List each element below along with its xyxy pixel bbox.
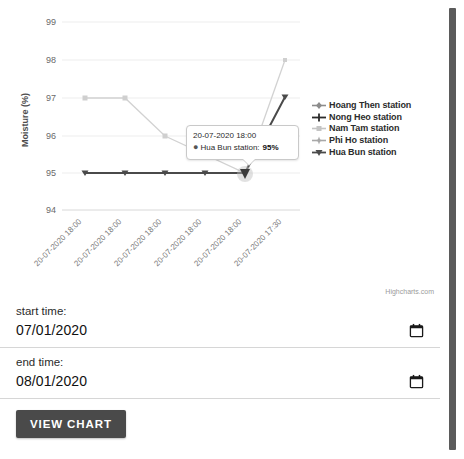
tooltip-date: 20-07-2020 18:00 xyxy=(193,130,292,141)
star-marker-icon xyxy=(312,135,326,146)
square-marker-icon xyxy=(312,123,326,134)
moisture-chart-panel: 99 98 97 96 95 94 Moisture (%) xyxy=(0,0,440,300)
legend-item-nam-tam-station[interactable]: Nam Tam station xyxy=(312,123,442,135)
legend-label-phi-ho-station: Phi Ho station xyxy=(329,135,388,146)
y-axis-ticks: 99 98 97 96 95 94 xyxy=(46,17,56,215)
start-time-label: start time: xyxy=(16,297,424,319)
legend-item-phi-ho-station[interactable]: Phi Ho station xyxy=(312,135,442,147)
legend-label-nong-heo-station: Nong Heo station xyxy=(329,112,402,123)
y-tick-98: 98 xyxy=(46,55,56,65)
diamond-marker-icon xyxy=(312,100,326,111)
tooltip-bullet-icon: ● xyxy=(193,141,198,153)
y-tick-97: 97 xyxy=(46,93,56,103)
y-tick-94: 94 xyxy=(46,205,56,215)
chart-legend: Hoang Then station Nong Heo station Nam … xyxy=(312,100,442,158)
y-tick-95: 95 xyxy=(46,168,56,178)
highcharts-credit[interactable]: Highcharts.com xyxy=(385,288,434,296)
x-axis-ticks: 20-07-2020 18:00 20-07-2020 18:00 20-07-… xyxy=(32,217,283,268)
legend-item-hua-bun-station[interactable]: Hua Bun station xyxy=(312,146,442,158)
y-axis-title: Moisture (%) xyxy=(20,93,30,147)
start-time-input[interactable]: 07/01/2020 xyxy=(16,322,87,338)
start-time-field-group: start time: 07/01/2020 xyxy=(0,297,440,348)
chart-tooltip: 20-07-2020 18:00 ● Hua Bun station: 95% xyxy=(186,125,299,160)
chart-gridlines xyxy=(62,22,300,210)
date-range-form: start time: 07/01/2020 end time: 08/01/2… xyxy=(0,297,440,438)
end-time-input-row[interactable]: 08/01/2020 xyxy=(16,370,424,398)
tooltip-pointer xyxy=(243,159,255,165)
legend-label-hua-bun-station: Hua Bun station xyxy=(329,147,397,158)
calendar-icon[interactable] xyxy=(409,323,424,338)
start-time-input-row[interactable]: 07/01/2020 xyxy=(16,319,424,347)
selected-data-point[interactable] xyxy=(237,166,253,182)
legend-label-nam-tam-station: Nam Tam station xyxy=(329,123,399,134)
triangle-down-marker-icon xyxy=(312,147,326,158)
view-chart-button[interactable]: VIEW CHART xyxy=(16,410,126,438)
tooltip-series-row: ● Hua Bun station: 95% xyxy=(193,141,292,154)
y-tick-96: 96 xyxy=(46,131,56,141)
tooltip-value: 95% xyxy=(263,142,279,154)
vertical-scrollbar-thumb[interactable] xyxy=(449,8,456,450)
y-tick-99: 99 xyxy=(46,17,56,27)
legend-item-hoang-then-station[interactable]: Hoang Then station xyxy=(312,100,442,112)
tooltip-series-label: Hua Bun station: xyxy=(200,142,259,154)
end-time-field-group: end time: 08/01/2020 xyxy=(0,348,440,399)
legend-label-hoang-then-station: Hoang Then station xyxy=(329,100,411,111)
end-time-label: end time: xyxy=(16,348,424,370)
calendar-icon[interactable] xyxy=(409,374,424,389)
legend-item-nong-heo-station[interactable]: Nong Heo station xyxy=(312,112,442,124)
vertical-scrollbar-track[interactable] xyxy=(446,0,464,459)
end-time-input[interactable]: 08/01/2020 xyxy=(16,373,87,389)
plus-marker-icon xyxy=(312,112,326,123)
